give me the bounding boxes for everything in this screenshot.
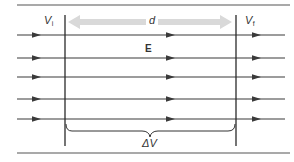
arrowhead-icon <box>32 96 41 102</box>
electric-field-label: E <box>145 44 152 54</box>
initial-potential-label: Vi <box>44 15 53 27</box>
arrowhead-icon <box>166 55 175 61</box>
arrowhead-icon <box>32 32 41 38</box>
final-potential-label: Vf <box>245 15 255 27</box>
arrowhead-icon <box>252 74 261 80</box>
arrowhead-icon <box>252 116 261 122</box>
arrowhead-icon <box>252 55 261 61</box>
arrowhead-icon <box>166 116 175 122</box>
arrowhead-icon <box>32 74 41 80</box>
distance-label: d <box>146 15 158 26</box>
arrowhead-icon <box>166 96 175 102</box>
potential-difference-label: ΔV <box>142 138 157 149</box>
arrowhead-icon <box>166 74 175 80</box>
potential-difference-brace <box>66 124 235 137</box>
arrowhead-icon <box>32 116 41 122</box>
arrowhead-icon <box>252 32 261 38</box>
arrowhead-icon <box>32 55 41 61</box>
arrowhead-icon <box>166 32 175 38</box>
arrowhead-icon <box>252 96 261 102</box>
